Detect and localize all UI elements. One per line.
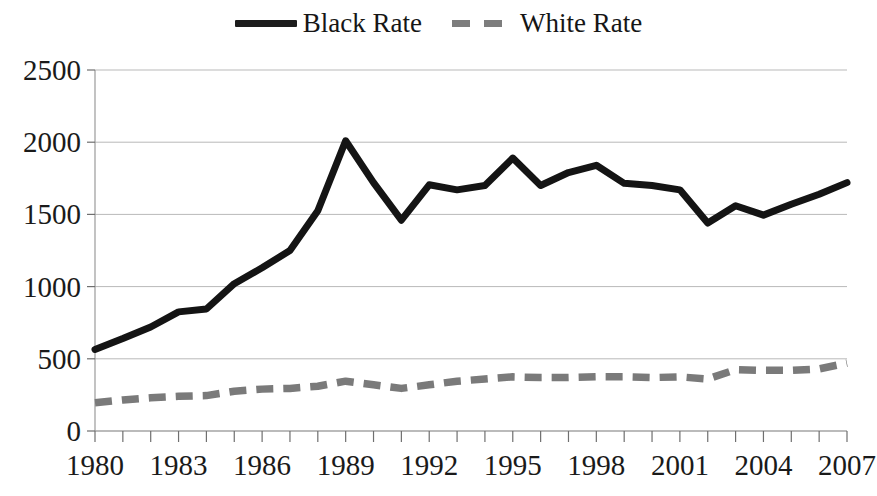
- x-tick-label: 2004: [734, 449, 793, 481]
- y-axis-tick-labels: 05001000150020002500: [23, 54, 81, 447]
- y-tick-label: 500: [38, 343, 82, 375]
- y-tick-label: 0: [67, 415, 82, 447]
- chart-root: Black Rate White Rate 050010001500200025…: [0, 0, 877, 496]
- x-tick-label: 1989: [317, 449, 375, 481]
- x-tick-marks: [95, 431, 847, 442]
- data-series-group: [95, 141, 847, 403]
- x-tick-label: 1995: [484, 449, 542, 481]
- x-tick-label: 2001: [651, 449, 709, 481]
- x-tick-label: 1980: [66, 449, 124, 481]
- series-line-white-rate: [95, 363, 847, 403]
- x-tick-label: 1986: [233, 449, 291, 481]
- x-tick-label: 1983: [150, 449, 208, 481]
- y-tick-label: 2500: [23, 54, 81, 86]
- y-tick-label: 1500: [23, 198, 81, 230]
- y-tick-label: 2000: [23, 126, 81, 158]
- y-tick-marks: [87, 70, 95, 431]
- plot-area: 05001000150020002500 1980198319861989199…: [0, 0, 877, 496]
- x-tick-label: 1998: [567, 449, 625, 481]
- x-axis-tick-labels: 1980198319861989199219951998200120042007: [66, 449, 876, 481]
- y-tick-label: 1000: [23, 271, 81, 303]
- x-tick-label: 1992: [400, 449, 458, 481]
- line-chart-svg: 05001000150020002500 1980198319861989199…: [0, 0, 877, 496]
- series-line-black-rate: [95, 141, 847, 350]
- x-tick-label: 2007: [818, 449, 876, 481]
